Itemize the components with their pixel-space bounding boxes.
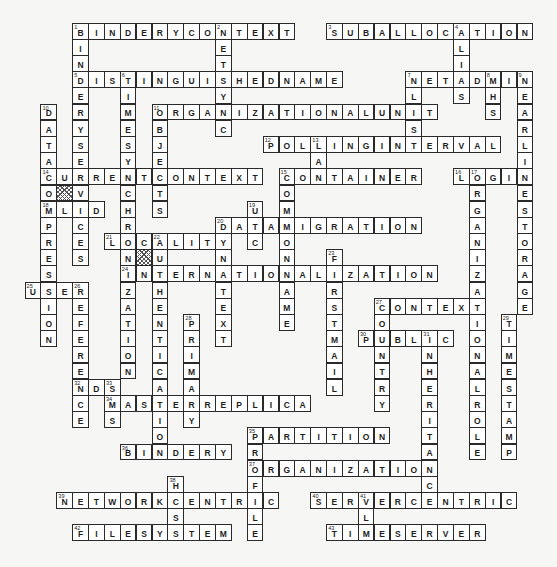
grid-cell[interactable]: A [294,395,311,412]
grid-cell[interactable]: O [199,23,216,40]
grid-cell[interactable]: I [199,71,216,88]
grid-cell[interactable]: T [231,265,248,282]
grid-cell[interactable]: I [485,492,502,509]
grid-cell[interactable]: N [421,265,438,282]
grid-cell[interactable]: I [374,136,391,153]
grid-cell[interactable]: S [167,508,184,525]
grid-cell[interactable]: M [183,363,200,380]
grid-cell[interactable]: K [152,492,169,509]
grid-cell[interactable]: U [183,71,200,88]
grid-cell[interactable]: E [72,330,89,347]
grid-cell[interactable]: S [405,120,422,137]
grid-cell[interactable]: 9N [517,71,534,88]
grid-cell[interactable]: A [310,152,327,169]
grid-cell[interactable]: 12P [263,136,280,153]
grid-cell[interactable]: E [374,492,391,509]
grid-cell[interactable]: R [374,379,391,396]
grid-cell[interactable]: R [199,444,216,461]
grid-cell[interactable]: 13L [310,136,327,153]
grid-cell[interactable]: Y [215,233,232,250]
grid-cell[interactable]: O [263,265,280,282]
grid-cell[interactable]: T [326,314,343,331]
grid-cell[interactable]: G [517,282,534,299]
grid-cell[interactable]: A [374,23,391,40]
grid-cell[interactable]: I [390,460,407,477]
grid-cell[interactable]: R [183,395,200,412]
grid-cell[interactable]: P [231,395,248,412]
grid-cell[interactable]: Z [342,265,359,282]
grid-cell[interactable]: I [374,217,391,234]
grid-cell[interactable]: C [263,492,280,509]
grid-cell[interactable]: O [374,314,391,331]
grid-cell[interactable]: I [152,411,169,428]
grid-cell[interactable]: R [469,524,486,541]
grid-cell[interactable]: C [405,492,422,509]
grid-cell[interactable]: T [469,23,486,40]
grid-cell[interactable]: T [215,282,232,299]
grid-cell[interactable]: E [437,298,454,315]
grid-cell[interactable]: X [215,314,232,331]
grid-cell[interactable]: R [517,249,534,266]
grid-cell[interactable]: Z [342,460,359,477]
grid-cell[interactable]: R [469,492,486,509]
grid-cell[interactable]: E [517,185,534,202]
grid-cell[interactable]: I [72,39,89,56]
grid-cell[interactable]: T [374,363,391,380]
grid-cell[interactable]: N [120,363,137,380]
grid-cell[interactable]: E [501,363,518,380]
grid-cell[interactable]: 21L [104,233,121,250]
grid-cell[interactable]: E [56,282,73,299]
grid-cell[interactable]: I [469,249,486,266]
grid-cell[interactable]: Z [120,282,137,299]
grid-cell[interactable]: C [152,168,169,185]
grid-cell[interactable]: E [374,524,391,541]
grid-cell[interactable]: T [517,217,534,234]
grid-cell[interactable]: S [40,265,57,282]
grid-cell[interactable]: S [104,411,121,428]
grid-cell[interactable]: T [358,217,375,234]
grid-cell[interactable]: G [469,201,486,218]
grid-cell[interactable]: T [199,233,216,250]
grid-cell[interactable]: 5D [72,71,89,88]
grid-cell[interactable]: 33S [104,379,121,396]
grid-cell[interactable]: V [437,524,454,541]
grid-cell[interactable]: T [152,330,169,347]
grid-cell[interactable]: V [72,185,89,202]
grid-cell[interactable]: P [40,217,57,234]
grid-cell[interactable]: M [279,217,296,234]
grid-cell[interactable]: H [120,201,137,218]
grid-cell[interactable]: H [152,282,169,299]
grid-cell[interactable]: L [247,395,264,412]
grid-cell[interactable]: N [421,460,438,477]
grid-cell[interactable]: J [152,136,169,153]
grid-cell[interactable]: 6T [120,71,137,88]
grid-cell[interactable]: O [279,233,296,250]
grid-cell[interactable]: N [215,249,232,266]
grid-cell[interactable]: N [517,23,534,40]
grid-cell[interactable]: L [56,201,73,218]
grid-cell[interactable]: D [120,23,137,40]
grid-cell[interactable]: U [374,330,391,347]
grid-cell[interactable]: R [342,492,359,509]
grid-cell[interactable]: 43T [326,524,343,541]
grid-cell[interactable]: I [183,346,200,363]
grid-cell[interactable]: I [247,265,264,282]
grid-cell[interactable]: G [167,71,184,88]
grid-cell[interactable]: I [310,427,327,444]
grid-cell[interactable]: R [199,395,216,412]
grid-cell[interactable]: L [104,524,121,541]
grid-cell[interactable]: A [342,217,359,234]
grid-cell[interactable]: E [421,136,438,153]
grid-cell[interactable]: I [517,152,534,169]
grid-cell[interactable]: S [215,71,232,88]
grid-cell[interactable]: I [501,330,518,347]
grid-cell[interactable]: A [120,298,137,315]
grid-cell[interactable]: 18M [40,201,57,218]
grid-cell[interactable]: O [120,346,137,363]
grid-cell[interactable]: A [294,460,311,477]
grid-cell[interactable]: E [120,524,137,541]
grid-cell[interactable]: C [152,363,169,380]
grid-cell[interactable]: E [215,168,232,185]
grid-cell[interactable]: O [421,23,438,40]
grid-cell[interactable]: E [215,39,232,56]
